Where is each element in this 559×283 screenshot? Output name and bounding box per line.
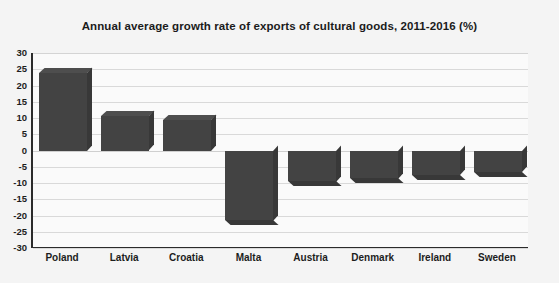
bar-side-face [211,114,216,150]
bar-latvia [101,116,149,150]
y-axis-tick-label: 20 [16,81,27,91]
bar-austria [288,151,336,182]
bars-layer [31,53,528,248]
bar-top-face [412,175,466,180]
bar-top-face [474,172,528,177]
gridline [33,248,528,249]
y-axis-tick-label: 10 [16,113,27,123]
bar-top-face [225,220,279,225]
y-axis-tick-label: -15 [13,195,27,205]
y-axis-tick-label: -20 [13,211,27,221]
y-axis-tick-label: 30 [16,48,27,58]
x-axis: PolandLatviaCroatiaMaltaAustriaDenmarkIr… [31,252,528,272]
x-axis-tick-label-latvia: Latvia [93,252,155,263]
x-axis-tick-label-austria: Austria [280,252,342,263]
y-axis-tick-label: 0 [22,146,27,156]
y-axis-tick-label: 5 [22,130,27,140]
chart-title: Annual average growth rate of exports of… [0,20,559,32]
bar-side-face [336,145,341,181]
bar-malta [225,151,273,221]
x-axis-tick-label-poland: Poland [31,252,93,263]
x-axis-tick-label-malta: Malta [217,252,279,263]
bar-top-face [163,115,217,120]
y-axis-tick-label: -25 [13,227,27,237]
x-axis-tick-label-denmark: Denmark [342,252,404,263]
bar-side-face [398,145,403,178]
y-axis-tick-label: -5 [19,162,27,172]
x-axis-tick-label-croatia: Croatia [155,252,217,263]
x-axis-tick-label-ireland: Ireland [404,252,466,263]
bar-top-face [288,181,342,186]
y-axis-tick-label: 25 [16,65,27,75]
bar-top-face [350,178,404,183]
bar-side-face [460,145,465,175]
bar-top-face [39,68,93,73]
bar-side-face [273,145,278,220]
y-axis: 302520151050-5-10-15-20-25-30 [0,53,27,248]
bar-sweden [474,151,522,172]
bar-croatia [163,120,211,151]
y-axis-tick-label: -10 [13,178,27,188]
x-axis-tick-label-sweden: Sweden [466,252,528,263]
y-axis-tick-label: -30 [13,243,27,253]
y-axis-tick-label: 15 [16,97,27,107]
chart-container: Annual average growth rate of exports of… [0,0,559,283]
bar-side-face [149,111,154,151]
bar-poland [39,73,87,151]
bar-denmark [350,151,398,179]
bar-side-face [522,145,527,172]
bar-top-face [101,111,155,116]
bar-ireland [412,151,460,175]
bar-side-face [87,67,92,151]
